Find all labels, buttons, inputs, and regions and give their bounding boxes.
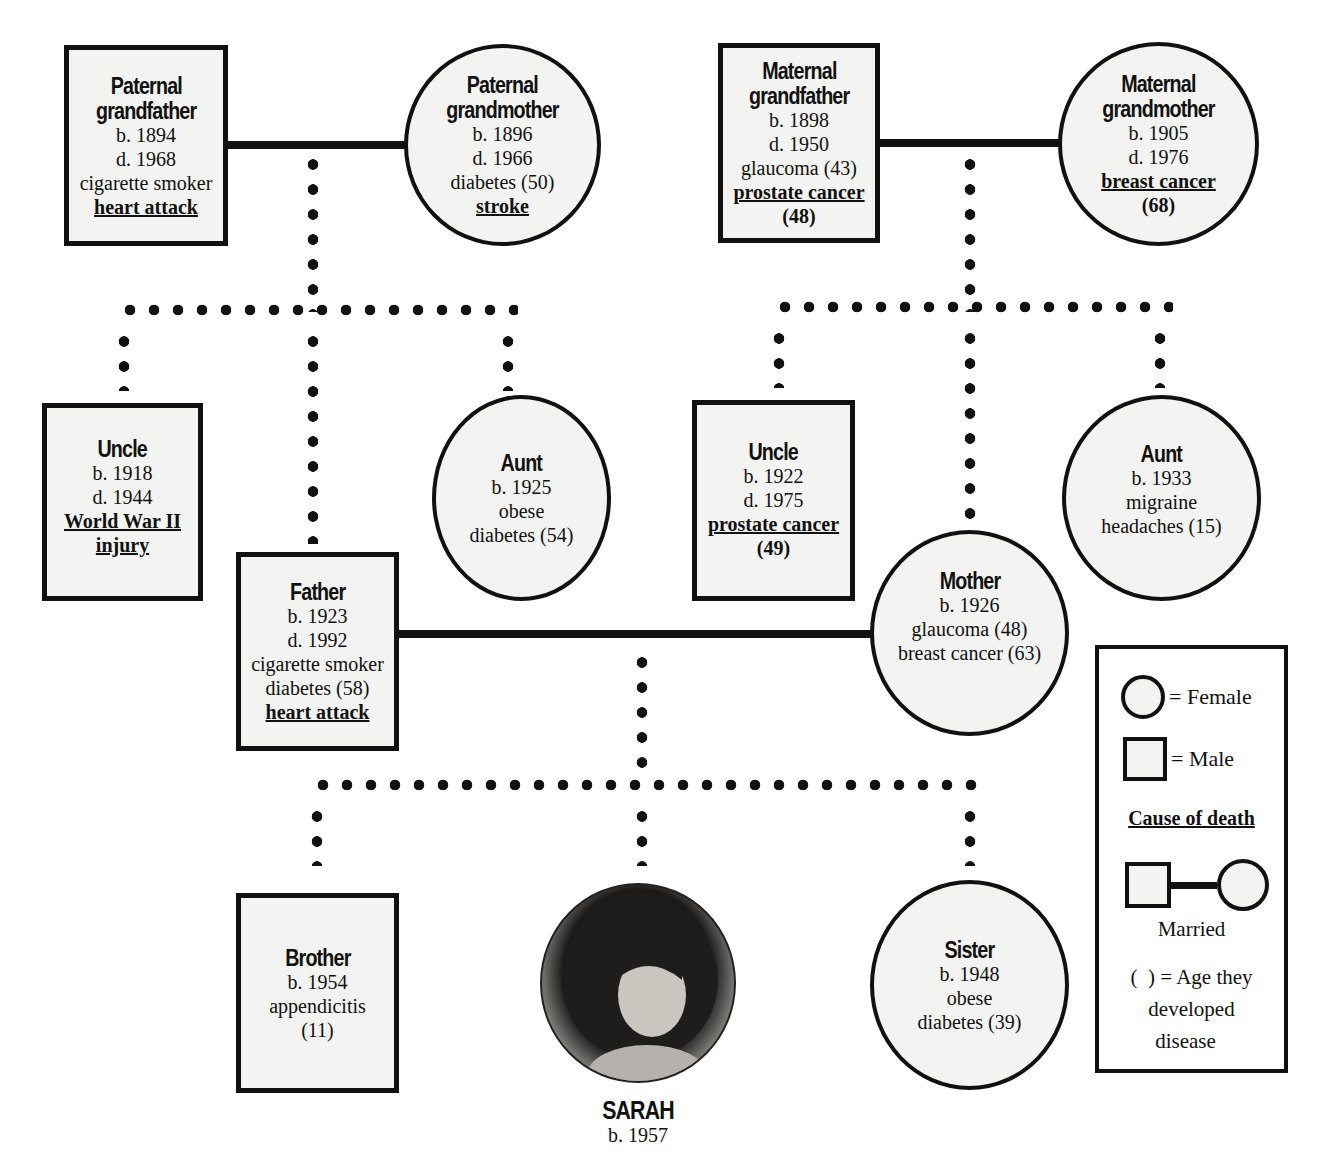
paternal-aunt-note-2: diabetes (54) [470, 523, 574, 547]
mother-node: Mother b. 1926 glaucoma (48) breast canc… [870, 530, 1069, 736]
sister-note-1: obese [947, 986, 993, 1010]
legend-male-label: = Male [1171, 746, 1234, 772]
paternal-uncle-cause-of-death-1: World War II [64, 509, 181, 533]
paternal-grandmother-cause-of-death: stroke [476, 194, 529, 218]
sister-title: Sister [945, 937, 995, 962]
mother-note-1: glaucoma (48) [911, 617, 1027, 641]
paternal-uncle-node: Uncle b. 1918 d. 1944 World War II injur… [42, 403, 203, 601]
brother-born: b. 1954 [288, 970, 348, 994]
maternal-grandfather-title-1: Maternal [762, 58, 836, 83]
legend-female-row: = Female [1121, 675, 1252, 719]
maternal-aunt-drop-dots [1154, 326, 1166, 388]
paternal-uncle-born: b. 1918 [93, 461, 153, 485]
maternal-grandfather-node: Maternal grandfather b. 1898 d. 1950 gla… [718, 43, 880, 243]
paternal-grandmother-title-1: Paternal [467, 72, 538, 97]
father-born: b. 1923 [288, 604, 348, 628]
maternal-aunt-node: Aunt b. 1933 migraine headaches (15) [1062, 395, 1261, 601]
legend-married-icon-row [1125, 859, 1269, 911]
mother-title: Mother [939, 568, 1000, 593]
maternal-grandfather-born: b. 1898 [769, 108, 829, 132]
legend-age-line-3: disease [1093, 1029, 1278, 1054]
maternal-aunt-note-2: headaches (15) [1101, 514, 1222, 538]
sarah-drop-dots [636, 804, 648, 866]
maternal-grandmother-title-2: grandmother [1102, 96, 1214, 121]
father-drop-dots [307, 329, 319, 544]
maternal-aunt-note-1: migraine [1126, 490, 1197, 514]
father-note-1: cigarette smoker [251, 652, 384, 676]
sister-note-2: diabetes (39) [918, 1010, 1022, 1034]
maternal-grandfather-died: d. 1950 [769, 132, 829, 156]
paternal-siblings-dots [118, 304, 518, 316]
legend-cause-of-death: Cause of death [1099, 807, 1284, 830]
paternal-uncle-drop-dots [118, 329, 130, 391]
maternal-grandmother-node: Maternal grandmother b. 1905 d. 1976 bre… [1058, 42, 1259, 246]
paternal-aunt-born: b. 1925 [492, 475, 552, 499]
paternal-grandmother-title-2: grandmother [446, 97, 558, 122]
maternal-grandparents-marriage-line [877, 139, 1060, 147]
paternal-aunt-title: Aunt [501, 450, 543, 475]
father-note-2: diabetes (58) [266, 676, 370, 700]
sister-drop-dots [964, 804, 976, 866]
maternal-uncle-title: Uncle [749, 439, 798, 464]
mother-born: b. 1926 [940, 593, 1000, 617]
paternal-grandfather-cause-of-death: heart attack [94, 195, 198, 219]
father-title: Father [290, 579, 345, 604]
paternal-grandparents-marriage-line [226, 141, 406, 149]
mother-note-2: breast cancer (63) [898, 641, 1041, 665]
maternal-siblings-dots [773, 301, 1173, 313]
brother-title: Brother [285, 945, 350, 970]
sarah-born: b. 1957 [540, 1123, 736, 1147]
maternal-grandfather-cause-age: (48) [782, 204, 815, 228]
paternal-aunt-node: Aunt b. 1925 obese diabetes (54) [432, 395, 611, 601]
paternal-grandfather-title-1: Paternal [110, 73, 181, 98]
female-circle-icon [1121, 675, 1165, 719]
maternal-uncle-node: Uncle b. 1922 d. 1975 prostate cancer (4… [692, 400, 855, 601]
sister-node: Sister b. 1948 obese diabetes (39) [870, 880, 1069, 1090]
children-dots [311, 779, 981, 791]
maternal-grandmother-died: d. 1976 [1129, 145, 1189, 169]
brother-drop-dots [311, 804, 323, 866]
legend-female-label: = Female [1169, 684, 1252, 710]
paternal-grandfather-note: cigarette smoker [80, 171, 213, 195]
maternal-uncle-drop-dots [773, 326, 785, 388]
paternal-descent-dots [307, 152, 319, 312]
maternal-descent-dots [964, 152, 976, 312]
paternal-grandmother-node: Paternal grandmother b. 1896 d. 1966 dia… [404, 44, 601, 246]
maternal-grandmother-title-1: Maternal [1121, 71, 1195, 96]
paternal-uncle-died: d. 1944 [93, 485, 153, 509]
maternal-uncle-cause-age: (49) [757, 536, 790, 560]
paternal-grandmother-note: diabetes (50) [451, 170, 555, 194]
paternal-grandfather-died: d. 1968 [116, 147, 176, 171]
maternal-grandmother-born: b. 1905 [1129, 121, 1189, 145]
maternal-uncle-died: d. 1975 [744, 488, 804, 512]
legend-male-row: = Male [1123, 737, 1234, 781]
maternal-grandmother-cause-of-death: breast cancer [1101, 169, 1216, 193]
sarah-caption: SARAH b. 1957 [540, 1098, 736, 1147]
mother-drop-dots [964, 326, 976, 526]
paternal-grandfather-node: Paternal grandfather b. 1894 d. 1968 cig… [64, 45, 228, 246]
married-link-icon [1171, 882, 1217, 889]
maternal-grandfather-cause-of-death: prostate cancer [733, 180, 864, 204]
father-died: d. 1992 [288, 628, 348, 652]
portrait-icon [542, 885, 736, 1083]
paternal-aunt-drop-dots [502, 329, 514, 391]
maternal-uncle-cause-of-death: prostate cancer [708, 512, 839, 536]
maternal-grandmother-cause-age: (68) [1142, 193, 1175, 217]
parents-marriage-line [397, 630, 872, 638]
married-male-square-icon [1125, 862, 1171, 908]
maternal-grandfather-note: glaucoma (43) [741, 156, 857, 180]
maternal-aunt-title: Aunt [1141, 441, 1183, 466]
sarah-portrait-photo [540, 883, 736, 1083]
legend-married-label: Married [1099, 917, 1284, 942]
legend: = Female = Male Cause of death Married (… [1095, 645, 1288, 1073]
paternal-aunt-note-1: obese [499, 499, 545, 523]
sister-born: b. 1948 [940, 962, 1000, 986]
legend-age-line-2: developed [1099, 997, 1284, 1022]
maternal-grandfather-title-2: grandfather [749, 83, 849, 108]
parents-descent-dots [636, 650, 648, 780]
brother-note-1: appendicitis [269, 994, 366, 1018]
legend-age-line-1: ( ) = Age they [1099, 965, 1284, 990]
maternal-aunt-born: b. 1933 [1132, 466, 1192, 490]
sarah-name: SARAH [558, 1098, 719, 1123]
married-female-circle-icon [1217, 859, 1269, 911]
